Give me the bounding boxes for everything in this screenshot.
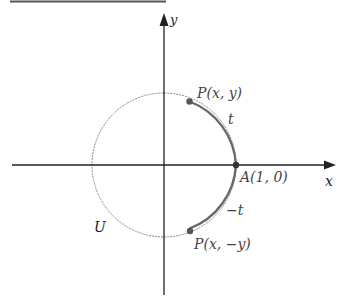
arc-minus-t [190,165,237,229]
label-arc-minus-t: −t [226,202,244,218]
x-axis-arrow-icon [324,161,336,170]
point-P-bottom [187,228,193,234]
label-arc-t: t [228,111,234,127]
label-circle-U: U [94,219,107,235]
y-axis-label: y [169,12,178,27]
label-P-bottom: P(x, −y) [193,236,251,252]
point-P-top [186,98,192,104]
x-axis-label: x [325,173,333,189]
y-axis-arrow-icon [160,13,169,26]
label-A: A(1, 0) [238,169,288,185]
label-P-top: P(x, y) [196,85,242,101]
point-A [233,162,239,168]
unit-circle-diagram: y x P(x, y) t A(1, 0) −t P(x, −y) U [0,0,340,296]
